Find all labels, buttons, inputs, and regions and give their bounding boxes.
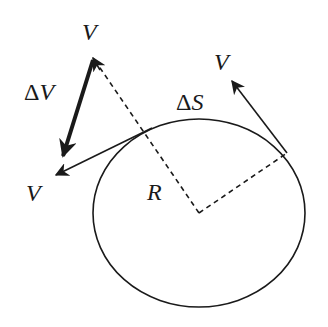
velocity-arrow-top <box>93 58 100 70</box>
label-radius: R <box>146 179 162 205</box>
radius-right-dashed <box>199 153 287 213</box>
label-v-top: V <box>82 19 99 45</box>
delta-s-symbol: Δ <box>176 89 191 115</box>
delta-v-symbol: Δ <box>24 79 39 105</box>
label-delta-v: ΔV <box>24 79 56 105</box>
label-v-right: V <box>214 49 231 75</box>
delta-v-var: V <box>39 79 56 105</box>
velocity-arrow-right <box>232 81 287 153</box>
circular-motion-diagram: V V V ΔV ΔS R <box>0 0 328 327</box>
label-delta-s: ΔS <box>176 89 203 115</box>
delta-v-arrow <box>63 60 93 156</box>
delta-s-var: S <box>191 89 203 115</box>
label-v-left: V <box>26 180 43 206</box>
